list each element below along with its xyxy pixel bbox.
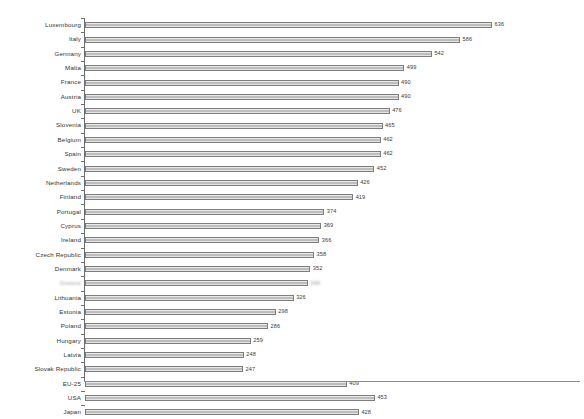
axis-tick [81,176,85,177]
bar [85,338,251,344]
bar [85,366,243,372]
category-label: Japan [0,409,81,415]
bar [85,123,383,129]
bar-row: Sweden452 [0,161,584,175]
bar [85,209,324,215]
bar-value-label: 298 [278,309,288,315]
axis-tick [81,334,85,335]
bar-value-label: 499 [407,65,417,71]
bar-value-label: 490 [401,80,411,86]
category-label: Luxembourg [0,22,81,28]
bar-row: Poland286 [0,319,584,333]
bar-value-label: 352 [313,266,323,272]
axis-tick [81,61,85,62]
axis-tick [81,319,85,320]
bar [85,352,244,358]
bar [85,295,294,301]
bar [85,395,375,401]
category-label: EU-25 [0,381,81,387]
category-label: Belgium [0,137,81,143]
bar [85,166,374,172]
axis-tick [81,248,85,249]
bar-value-label: 248 [246,352,256,358]
bar-value-label: 586 [463,37,473,43]
bar [85,37,460,43]
axis-tick [81,190,85,191]
category-label: Italy [0,36,81,42]
axis-tick [81,233,85,234]
axis-tick [81,362,85,363]
bar [85,252,314,258]
bar [85,151,381,157]
bar-container: 374 [85,209,337,215]
bar [85,309,276,315]
bar-row: Germany542 [0,47,584,61]
category-label: Malta [0,65,81,71]
bar-row: Spain462 [0,147,584,161]
bar-value-label: 453 [377,395,387,401]
category-label: Estonia [0,309,81,315]
bar-value-label: 636 [495,22,505,28]
bar [85,409,359,415]
axis-tick [81,305,85,306]
bar-value-label: 465 [385,123,395,129]
bar-container: 542 [85,51,444,57]
bar-value-label: 358 [317,252,327,258]
axis-tick [81,405,85,406]
bar-row: France490 [0,75,584,89]
bar [85,108,390,114]
bar-row: EU-25409 [0,377,584,391]
axis-tick [81,391,85,392]
bar [85,65,404,71]
bar-value-label: 374 [327,209,337,215]
category-label: Czech Republic [0,252,81,258]
bar-row: Cyprus369 [0,219,584,233]
bar-row: Lithuania326 [0,291,584,305]
category-label: Lithuania [0,295,81,301]
bar-row: Netherlands426 [0,176,584,190]
bar-container: 298 [85,309,288,315]
category-label: Spain [0,151,81,157]
bar-row: UK476 [0,104,584,118]
bar-row: Estonia298 [0,305,584,319]
category-label: Slovenia [0,122,81,128]
bar [85,280,308,286]
bar [85,94,399,100]
axis-tick [81,377,85,378]
category-label: Cyprus [0,223,81,229]
category-label: UK [0,108,81,114]
category-label: Greece [0,280,81,286]
bar-value-label: 462 [383,151,393,157]
bar [85,266,310,272]
bar [85,137,381,143]
bar-row: Luxembourg636 [0,18,584,32]
bar-row: Austria490 [0,90,584,104]
category-label: USA [0,395,81,401]
bar-container: 476 [85,108,402,114]
category-label: Ireland [0,237,81,243]
bar [85,323,268,329]
bar-container: 490 [85,80,411,86]
category-label: Finland [0,194,81,200]
bar-container: 490 [85,94,411,100]
axis-tick [81,262,85,263]
bar-value-label: 259 [253,338,263,344]
bar-row: Denmark352 [0,262,584,276]
category-label: Poland [0,323,81,329]
bar-rows: Luxembourg636Italy586Germany542Malta499F… [0,18,584,419]
bar-container: 248 [85,352,256,358]
bar-container: 462 [85,137,393,143]
bar-value-label: 542 [434,51,444,57]
bar-value-label: 366 [322,238,332,244]
bar-row: Hungary259 [0,334,584,348]
bar-container: 453 [85,395,387,401]
bar-value-label: 426 [360,180,370,186]
bar-container: 586 [85,37,472,43]
bar-row: Slovak Republic247 [0,362,584,376]
bar-row: Japan428 [0,405,584,419]
bar-container: 247 [85,366,255,372]
category-label: Portugal [0,209,81,215]
bar-row: Malta499 [0,61,584,75]
